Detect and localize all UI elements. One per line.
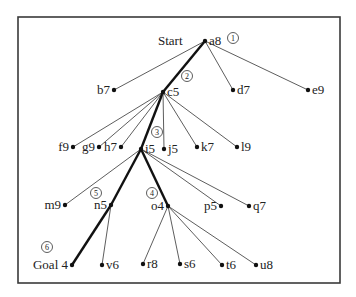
tree-node-p5: p5 [204, 198, 223, 213]
tree-node-t6: t6 [220, 257, 237, 272]
node-label: l9 [241, 139, 251, 154]
step-marker-3: 3 [152, 127, 163, 138]
node-label: d7 [237, 82, 251, 97]
step-marker-2: 2 [182, 71, 193, 82]
node-dot-icon [71, 145, 75, 149]
tree-node-k7: k7 [195, 139, 215, 154]
node-label: t6 [226, 257, 237, 272]
node-dot-icon [219, 204, 223, 208]
node-dot-icon [161, 90, 165, 94]
edge-o4-u8 [168, 206, 256, 265]
step-number: 4 [150, 189, 154, 198]
node-dot-icon [141, 262, 145, 266]
tree-node-h7: h7 [104, 139, 123, 154]
node-label: n5 [94, 197, 107, 212]
node-dot-icon [63, 203, 67, 207]
step-number: 3 [155, 128, 159, 137]
start-label: Start [158, 33, 183, 48]
tree-node-e9: e9 [306, 82, 324, 97]
edge-c5-k7 [163, 92, 197, 147]
tree-node-o4: o4 [151, 198, 170, 213]
node-dot-icon [112, 88, 116, 92]
edge-a8-b7 [114, 41, 205, 90]
node-dot-icon [109, 203, 113, 207]
node-dot-icon [139, 147, 143, 151]
node-label: Goal 4 [33, 257, 69, 272]
node-label: i5 [145, 141, 155, 156]
tree-node-i5: i5 [139, 141, 155, 156]
edge-i5-n5 [111, 149, 141, 205]
tree-node-s6: s6 [178, 256, 196, 271]
node-dot-icon [203, 39, 207, 43]
edge-n5-goal [72, 205, 111, 265]
tree-node-r8: r8 [141, 256, 158, 271]
tree-node-d7: d7 [231, 82, 251, 97]
step-marker-4: 4 [147, 188, 158, 199]
step-number: 2 [185, 72, 189, 81]
node-dot-icon [162, 147, 166, 151]
node-label: h7 [104, 139, 118, 154]
node-label: o4 [151, 198, 165, 213]
edge-a8-e9 [205, 41, 308, 90]
node-dot-icon [231, 88, 235, 92]
tree-node-l9: l9 [235, 139, 251, 154]
node-dot-icon [70, 263, 74, 267]
edge-c5-h7 [121, 92, 163, 147]
node-dot-icon [254, 263, 258, 267]
node-label: b7 [97, 82, 111, 97]
tree-node-c5: c5 [161, 84, 179, 99]
tree-node-a8: a8 [203, 33, 221, 48]
node-label: m9 [44, 197, 61, 212]
node-label: e9 [312, 82, 324, 97]
node-label: a8 [209, 33, 221, 48]
node-dot-icon [166, 204, 170, 208]
node-dot-icon [97, 145, 101, 149]
node-dot-icon [220, 263, 224, 267]
tree-node-b7: b7 [97, 82, 116, 97]
node-dot-icon [195, 145, 199, 149]
edge-a8-d7 [205, 41, 233, 90]
node-dot-icon [306, 88, 310, 92]
node-dot-icon [178, 262, 182, 266]
step-marker-6: 6 [42, 242, 53, 253]
step-number: 1 [231, 34, 235, 43]
node-label: j5 [167, 141, 178, 156]
node-label: f9 [58, 139, 69, 154]
step-number: 5 [94, 189, 98, 198]
tree-node-m9: m9 [44, 197, 67, 212]
tree-node-f9: f9 [58, 139, 75, 154]
edge-c5-l9 [163, 92, 237, 147]
node-label: k7 [201, 139, 215, 154]
node-dot-icon [100, 263, 104, 267]
tree-nodes: a8b7c5d7e9f9g9h7i5j5k7l9m9n5o4p5q7Goal 4… [33, 33, 324, 272]
node-label: g9 [82, 139, 95, 154]
node-label: v6 [106, 257, 120, 272]
node-label: s6 [184, 256, 196, 271]
tree-node-g9: g9 [82, 139, 101, 154]
edge-o4-s6 [168, 206, 180, 264]
node-label: u8 [260, 257, 273, 272]
node-label: p5 [204, 198, 217, 213]
node-dot-icon [247, 204, 251, 208]
edge-c5-j5 [163, 92, 164, 149]
step-marker-5: 5 [91, 188, 102, 199]
node-dot-icon [119, 145, 123, 149]
node-dot-icon [235, 145, 239, 149]
step-marker-1: 1 [228, 33, 239, 44]
node-label: q7 [253, 198, 267, 213]
tree-node-u8: u8 [254, 257, 273, 272]
tree-node-goal: Goal 4 [33, 257, 74, 272]
step-number: 6 [45, 243, 49, 252]
tree-node-q7: q7 [247, 198, 267, 213]
search-tree-diagram: a8b7c5d7e9f9g9h7i5j5k7l9m9n5o4p5q7Goal 4… [0, 0, 356, 297]
node-label: r8 [147, 256, 158, 271]
node-label: c5 [167, 84, 179, 99]
